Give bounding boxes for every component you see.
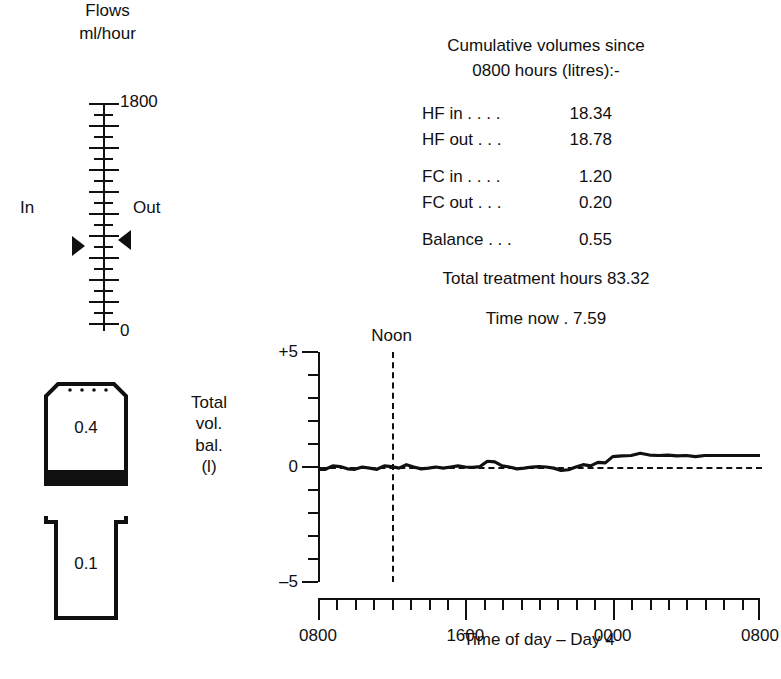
time-now: Time now . 7.59 (376, 309, 716, 329)
readout-row-hf-in: HF in . . . . 18.34 (422, 101, 716, 127)
flow-scale-panel: Flows ml/hour 1800 0 In Out (0, 0, 215, 360)
scale-tick-major (89, 103, 119, 105)
total-treatment-hours: Total treatment hours 83.32 (376, 269, 716, 289)
y-tick-minor (308, 558, 318, 560)
y-tick-minor (308, 443, 318, 445)
y-caption-line-3: bal. (170, 435, 248, 456)
x-tick-minor (631, 598, 633, 610)
scale-tick-minor (94, 290, 113, 292)
scale-tick-major (89, 213, 119, 215)
x-axis: 0800160000000800 (318, 598, 760, 624)
noon-label: Noon (371, 326, 412, 346)
y-tick-major (302, 351, 318, 353)
volume-balance-chart: Total vol. bal. (l) +50–5 Noon 080016000… (170, 330, 781, 679)
x-axis-caption: Time of day – Day 4 (318, 630, 760, 650)
x-tick-minor (668, 598, 670, 610)
x-tick-minor (742, 598, 744, 610)
x-tick-minor (521, 598, 523, 610)
y-tick-minor (308, 535, 318, 537)
beaker-value-label: 0.1 (42, 554, 130, 574)
x-tick-major (465, 598, 467, 620)
y-axis-tick-label: +5 (279, 342, 298, 362)
scale-tick-minor (94, 114, 113, 116)
x-tick-minor (502, 598, 504, 610)
row-label: FC out . . . (422, 190, 542, 216)
readout-heading: Cumulative volumes since 0800 hours (lit… (376, 34, 716, 83)
x-tick-minor (336, 598, 338, 610)
flow-scale-title: Flows ml/hour (0, 0, 215, 46)
x-tick-minor (557, 598, 559, 610)
row-label: FC in . . . . (422, 164, 542, 190)
scale-tick-major (89, 257, 119, 259)
scale-tick-major (89, 169, 119, 171)
row-value: 18.34 (542, 101, 612, 127)
scale-tick-major (89, 125, 119, 127)
y-axis-tick-label: –5 (279, 572, 298, 592)
y-tick-minor (308, 374, 318, 376)
readout-row-hf-out: HF out . . . 18.78 (422, 127, 716, 153)
cumulative-volumes-readout: Cumulative volumes since 0800 hours (lit… (376, 34, 716, 329)
scale-tick-minor (94, 180, 113, 182)
scale-min-label: 0 (120, 321, 129, 341)
readout-row-fc-in: FC in . . . . 1.20 (422, 164, 716, 190)
fluid-beaker-indicator: 0.1 (42, 514, 130, 626)
row-label: Balance . . . (422, 227, 542, 253)
scale-tick-minor (94, 202, 113, 204)
y-tick-minor (308, 489, 318, 491)
x-tick-minor (392, 598, 394, 610)
flow-out-label: Out (133, 198, 160, 218)
balance-trace (318, 352, 760, 582)
y-tick-minor (308, 512, 318, 514)
scale-tick-minor (94, 246, 113, 248)
flow-out-marker-icon (118, 230, 131, 250)
scale-tick-minor (94, 268, 113, 270)
scale-tick-major (89, 279, 119, 281)
x-tick-minor (429, 598, 431, 610)
y-tick-minor (308, 420, 318, 422)
scale-tick-minor (94, 158, 113, 160)
row-spacer (422, 152, 716, 164)
flow-scale-gauge: 1800 0 In Out (0, 95, 215, 345)
flow-title-line-1: Flows (0, 0, 215, 23)
fluid-bag-indicator: 0.4 (42, 378, 130, 488)
x-tick-minor (539, 598, 541, 610)
readout-heading-line-1: Cumulative volumes since (376, 34, 716, 59)
y-axis-caption: Total vol. bal. (l) (170, 392, 248, 477)
x-tick-minor (410, 598, 412, 610)
row-label: HF in . . . . (422, 101, 542, 127)
scale-tick-minor (94, 136, 113, 138)
row-value: 0.20 (542, 190, 612, 216)
row-value: 18.78 (542, 127, 612, 153)
x-tick-minor (686, 598, 688, 610)
scale-tick-minor (94, 224, 113, 226)
readout-row-fc-out: FC out . . . 0.20 (422, 190, 716, 216)
x-tick-minor (373, 598, 375, 610)
flow-title-line-2: ml/hour (0, 23, 215, 46)
scale-tick-major (89, 301, 119, 303)
x-tick-minor (355, 598, 357, 610)
x-tick-minor (723, 598, 725, 610)
x-tick-minor (484, 598, 486, 610)
row-spacer (422, 215, 716, 227)
readout-row-balance: Balance . . . 0.55 (422, 227, 716, 253)
scale-tick-major (89, 235, 119, 237)
scale-tick-major (89, 147, 119, 149)
readout-rows: HF in . . . . 18.34 HF out . . . 18.78 F… (422, 101, 716, 253)
row-value: 0.55 (542, 227, 612, 253)
flow-in-marker-icon (72, 236, 85, 256)
x-tick-minor (705, 598, 707, 610)
x-tick-minor (576, 598, 578, 610)
scale-tick-major (89, 323, 119, 325)
y-axis-tick-label: 0 (289, 457, 298, 477)
x-tick-major (318, 598, 320, 620)
scale-tick-minor (94, 312, 113, 314)
bag-value-label: 0.4 (42, 418, 130, 438)
y-tick-major (302, 466, 318, 468)
y-tick-major (302, 581, 318, 583)
y-caption-line-1: Total (170, 392, 248, 413)
readout-heading-line-2: 0800 hours (litres):- (376, 59, 716, 84)
y-caption-line-4: (l) (170, 456, 248, 477)
x-tick-minor (447, 598, 449, 610)
x-tick-major (613, 598, 615, 620)
x-tick-minor (650, 598, 652, 610)
